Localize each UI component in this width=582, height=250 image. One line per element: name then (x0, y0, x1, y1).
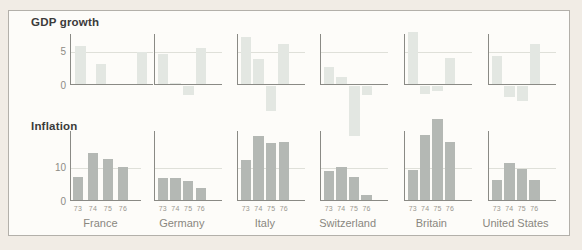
x-axis-baseline (237, 200, 305, 201)
bar-germany-73 (158, 178, 169, 201)
bar-britain-75 (432, 119, 443, 201)
year-label-76: 76 (442, 205, 458, 212)
year-label-73: 73 (70, 205, 86, 212)
bar-united-states-74 (504, 86, 515, 97)
country-label-united-states: United States (468, 217, 564, 229)
bar-britain-73 (408, 170, 419, 201)
bar-france-76 (118, 167, 129, 201)
y-axis-spine (488, 34, 489, 85)
bar-britain-76 (445, 58, 456, 85)
bar-france-73 (73, 177, 84, 201)
panel-gdp-growth-germany (154, 34, 222, 85)
y-tick-label-0: 0 (44, 79, 66, 92)
bar-italy-74 (253, 59, 264, 85)
bar-germany-75 (183, 86, 194, 95)
bar-switzerland-76 (362, 86, 373, 95)
x-axis-baseline (320, 200, 388, 201)
bar-france-73 (75, 46, 86, 85)
bar-italy-73 (241, 160, 252, 201)
y-axis-spine (70, 131, 71, 201)
bar-switzerland-75 (349, 86, 360, 136)
gridline-10 (320, 168, 388, 169)
panel-gdp-growth-united-states (488, 34, 556, 85)
panel-inflation-britain: 73747576Britain (404, 131, 472, 201)
y-axis-spine (237, 34, 238, 85)
panel-gdp-growth-france: 50 (70, 34, 153, 85)
gridline-5 (154, 52, 222, 53)
bar-germany-76 (196, 48, 207, 85)
panel-gdp-growth-italy (237, 34, 305, 85)
bar-france-74 (96, 64, 107, 85)
x-axis-baseline (154, 84, 222, 85)
scanned-page: { "frame": { "page_bg": "#f1ece5", "pane… (0, 0, 582, 250)
y-axis-spine (154, 34, 155, 85)
chart-frame: GDP growth Inflation 5010073747576France… (8, 10, 570, 236)
panel-gdp-growth-switzerland (320, 34, 388, 85)
bar-france-76 (137, 52, 148, 85)
bar-germany-73 (158, 54, 169, 85)
bar-united-states-73 (492, 56, 503, 85)
y-axis-spine (320, 34, 321, 85)
y-axis-spine (488, 131, 489, 201)
x-axis-baseline (404, 84, 472, 85)
gridline-5 (488, 52, 556, 53)
year-label-76: 76 (276, 205, 292, 212)
x-axis-baseline (488, 200, 556, 201)
year-label-75: 75 (100, 205, 116, 212)
panel-inflation-germany: 73747576Germany (154, 131, 222, 201)
x-axis-baseline (320, 84, 388, 85)
bar-britain-76 (445, 142, 456, 201)
bar-italy-75 (266, 86, 277, 111)
bar-italy-76 (278, 44, 289, 85)
gridline-10 (154, 168, 222, 169)
x-axis-baseline (70, 200, 141, 201)
y-axis-spine (320, 131, 321, 201)
bar-switzerland-75 (349, 177, 360, 201)
x-axis-baseline (237, 84, 305, 85)
bar-switzerland-73 (324, 171, 335, 201)
bar-germany-74 (170, 178, 181, 201)
bar-britain-74 (420, 86, 431, 94)
panel-inflation-switzerland: 73747576Switzerland (320, 131, 388, 201)
bar-britain-73 (408, 32, 419, 85)
country-label-switzerland: Switzerland (300, 217, 396, 229)
year-label-74: 74 (85, 205, 101, 212)
y-axis-spine (70, 34, 71, 85)
bar-france-75 (103, 159, 114, 201)
year-label-76: 76 (359, 205, 375, 212)
y-tick-label-10: 10 (44, 161, 66, 174)
x-axis-baseline (70, 84, 153, 85)
bar-germany-76 (196, 188, 207, 201)
y-tick-label-5: 5 (44, 45, 66, 58)
bar-united-states-75 (517, 169, 528, 201)
bar-united-states-76 (530, 44, 541, 85)
year-label-76: 76 (193, 205, 209, 212)
year-label-76: 76 (526, 205, 542, 212)
bar-italy-76 (279, 142, 290, 201)
y-tick-label-0: 0 (44, 195, 66, 208)
country-label-britain: Britain (383, 217, 479, 229)
bar-united-states-73 (492, 180, 503, 201)
gdp-growth-title: GDP growth (31, 16, 99, 28)
panel-gdp-growth-britain (404, 34, 472, 85)
panel-inflation-italy: 73747576Italy (237, 131, 305, 201)
bar-france-74 (88, 153, 99, 201)
x-axis-baseline (154, 200, 222, 201)
panel-inflation-united-states: 73747576United States (488, 131, 556, 201)
bar-united-states-76 (529, 180, 540, 201)
y-axis-spine (404, 34, 405, 85)
y-axis-spine (404, 131, 405, 201)
year-label-76: 76 (115, 205, 131, 212)
panel-inflation-france: 10073747576France (70, 131, 141, 201)
bar-italy-75 (266, 143, 277, 201)
country-label-germany: Germany (134, 217, 230, 229)
y-axis-spine (237, 131, 238, 201)
x-axis-baseline (488, 84, 556, 85)
bar-united-states-75 (517, 86, 528, 101)
bar-britain-75 (432, 86, 443, 91)
y-axis-spine (154, 131, 155, 201)
bar-switzerland-74 (336, 167, 347, 201)
bar-switzerland-73 (324, 67, 335, 85)
country-label-italy: Italy (217, 217, 313, 229)
bar-united-states-74 (504, 163, 515, 201)
